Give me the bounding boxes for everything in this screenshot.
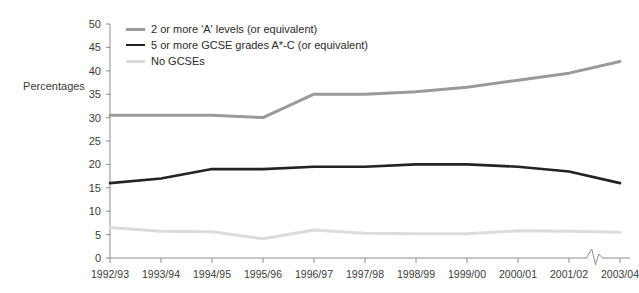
chart-legend: 2 or more 'A' levels (or equivalent)5 or…: [126, 22, 368, 70]
legend-item[interactable]: 5 or more GCSE grades A*-C (or equivalen…: [126, 38, 368, 52]
legend-item[interactable]: No GCSEs: [126, 54, 368, 68]
x-axis-tick-label: 1996/97: [295, 268, 333, 280]
series-line: [110, 228, 620, 239]
x-axis-tick-label: 2001/02: [550, 268, 588, 280]
x-axis-tick-label: 1993/94: [142, 268, 180, 280]
x-axis-tick-label: 1997/98: [346, 268, 384, 280]
x-axis-tick-labels: 1992/931993/941994/951995/961996/971997/…: [0, 268, 638, 286]
legend-label: 5 or more GCSE grades A*-C (or equivalen…: [151, 40, 368, 51]
legend-color-swatch: [126, 60, 145, 63]
x-axis-tick-label: 2000/01: [499, 268, 537, 280]
x-axis-tick-label: 2003/04: [601, 268, 639, 280]
legend-label: No GCSEs: [151, 56, 205, 67]
x-axis-tick-label: 1998/99: [397, 268, 435, 280]
legend-item[interactable]: 2 or more 'A' levels (or equivalent): [126, 22, 368, 36]
x-axis-tick-label: 1995/96: [244, 268, 282, 280]
legend-color-swatch: [126, 44, 145, 46]
x-axis-tick-label: 1994/95: [193, 268, 231, 280]
legend-label: 2 or more 'A' levels (or equivalent): [151, 24, 317, 35]
x-axis-tick-label: 1999/00: [448, 268, 486, 280]
x-axis-tick-label: 1992/93: [91, 268, 129, 280]
series-line: [110, 164, 620, 183]
legend-color-swatch: [126, 28, 145, 31]
